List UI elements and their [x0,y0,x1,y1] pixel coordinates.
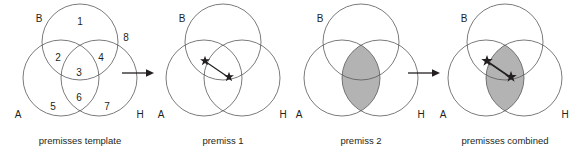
region-number-1: 1 [77,16,83,27]
arrow-premiss2-to-combined [408,69,440,77]
circle-B [185,4,261,80]
region-number-4: 4 [98,52,104,63]
panel-premiss-1: B A H premiss 1 [158,4,287,146]
panel-caption-premisses-combined: premisses combined [461,135,548,146]
region-number-8: 8 [123,32,129,43]
region-number-3: 3 [76,67,82,78]
set-label-B: B [179,13,186,24]
set-label-B: B [36,13,43,24]
set-label-H: H [417,109,424,120]
set-label-A: A [296,109,303,120]
set-label-B: B [317,13,324,24]
arrow-template-to-premiss1 [122,69,154,77]
region-number-5: 5 [50,101,56,112]
set-label-A: A [158,109,165,120]
set-label-A: A [440,109,447,120]
panel-caption-premiss-2: premiss 2 [340,135,381,146]
venn-diagram-figure: B A H 1 2 3 4 5 6 7 8 premisses template… [0,0,586,151]
set-label-H: H [279,109,286,120]
region-number-2: 2 [55,52,61,63]
panel-caption-premiss-1: premiss 1 [202,135,243,146]
set-label-H: H [136,109,143,120]
set-label-H: H [561,109,568,120]
panel-premisses-combined: B A H premisses combined [440,4,569,146]
panel-caption-premisses-template: premisses template [39,135,121,146]
star-connector-line [206,62,228,77]
panel-premisses-template: B A H 1 2 3 4 5 6 7 8 premisses template [15,4,144,146]
panel-premiss-2: B A H premiss 2 [296,4,425,146]
region-number-7: 7 [104,101,110,112]
set-label-A: A [15,109,22,120]
set-label-B: B [461,13,468,24]
region-number-6: 6 [76,92,82,103]
